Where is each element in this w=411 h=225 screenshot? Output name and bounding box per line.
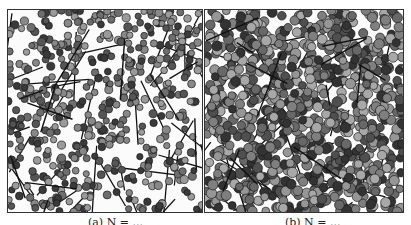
particle-circle: [224, 53, 232, 61]
caption-b: (b) N = ...: [285, 216, 340, 225]
particle-circle: [39, 186, 47, 194]
particle-circle: [103, 118, 109, 124]
particle-circle: [221, 190, 231, 200]
particle-circle: [158, 112, 165, 119]
particle-circle: [88, 79, 94, 85]
particle-circle: [138, 58, 145, 65]
particle-circle: [169, 34, 177, 42]
particle-circle: [8, 129, 14, 135]
particle-circle: [195, 10, 201, 16]
rod-line: [201, 144, 202, 187]
particle-circle: [13, 107, 20, 114]
particle-circle: [8, 203, 15, 210]
particle-circle: [164, 142, 170, 148]
particle-circle: [79, 98, 86, 105]
particle-circle: [145, 163, 152, 170]
particle-circle: [396, 185, 403, 193]
particle-circle: [20, 17, 28, 25]
particle-circle: [56, 207, 63, 212]
particle-circle: [193, 206, 199, 212]
particle-circle: [168, 62, 176, 70]
particle-circle: [182, 126, 188, 132]
particle-circle: [24, 183, 31, 190]
particle-circle: [52, 40, 58, 46]
particle-circle: [228, 202, 236, 210]
particle-circle: [179, 168, 186, 175]
particle-circle: [84, 204, 91, 211]
particle-circle: [81, 192, 88, 199]
particle-circle: [317, 194, 327, 204]
particle-circle: [71, 154, 78, 161]
particle-circle: [380, 15, 390, 25]
particle-circle: [12, 182, 19, 189]
particle-circle: [335, 200, 345, 210]
particle-circle: [205, 20, 215, 30]
particle-circle: [374, 39, 384, 49]
particle-circle: [21, 84, 27, 90]
particle-circle: [314, 56, 323, 65]
particle-circle: [117, 121, 124, 128]
particle-circle: [129, 173, 135, 179]
particle-circle: [229, 126, 237, 134]
particle-circle: [186, 57, 193, 64]
particle-circle: [341, 155, 349, 163]
particle-circle: [141, 32, 148, 39]
particle-circle: [104, 10, 111, 15]
particle-circle: [286, 159, 294, 167]
particle-circle: [8, 79, 13, 87]
particle-circle: [124, 23, 132, 31]
particle-circle: [137, 153, 143, 159]
particle-circle: [116, 136, 124, 144]
particle-circle: [80, 23, 87, 30]
particle-circle: [187, 98, 194, 105]
particle-circle: [381, 197, 391, 207]
particle-circle: [150, 147, 156, 153]
particle-circle: [231, 77, 241, 87]
particle-circle: [226, 44, 235, 53]
particle-circle: [348, 11, 356, 19]
particle-circle: [107, 81, 113, 87]
particle-circle: [366, 133, 375, 142]
particle-circle: [123, 137, 129, 143]
particle-circle: [127, 32, 133, 38]
particle-circle: [180, 175, 188, 183]
particle-circle: [24, 65, 31, 72]
particle-circle: [235, 168, 245, 178]
particle-circle: [357, 100, 367, 110]
particle-circle: [39, 86, 47, 94]
particle-circle: [398, 140, 403, 148]
particle-circle: [397, 168, 403, 176]
particle-circle: [101, 54, 108, 62]
particle-circle: [139, 206, 146, 212]
particle-circle: [18, 25, 24, 31]
particle-circle: [388, 52, 398, 62]
particle-circle: [383, 94, 392, 103]
particle-circle: [341, 112, 349, 120]
particle-circle: [276, 100, 285, 109]
particle-circle: [261, 193, 269, 201]
rod-line: [199, 72, 202, 133]
particle-circle: [17, 115, 24, 122]
particle-circle: [90, 59, 96, 65]
particle-circle: [345, 78, 355, 88]
particle-circle: [354, 133, 362, 141]
particle-circle: [18, 143, 25, 150]
particle-circle: [395, 66, 403, 74]
particle-circle: [103, 30, 111, 38]
particle-circle: [245, 195, 254, 204]
particle-circle: [75, 35, 82, 42]
particle-circle: [63, 168, 70, 175]
particle-circle: [8, 48, 13, 55]
particle-circle: [320, 72, 328, 80]
particle-circle: [292, 28, 301, 37]
particle-circle: [194, 66, 202, 74]
particle-circle: [114, 10, 122, 16]
particle-circle: [258, 27, 267, 36]
particle-circle: [84, 131, 92, 139]
particle-circle: [57, 10, 65, 14]
caption-a: (a) N = ...: [88, 216, 143, 225]
particle-circle: [179, 38, 186, 45]
particle-circle: [50, 137, 56, 143]
particle-circle: [187, 149, 195, 157]
particle-circle: [45, 147, 51, 153]
